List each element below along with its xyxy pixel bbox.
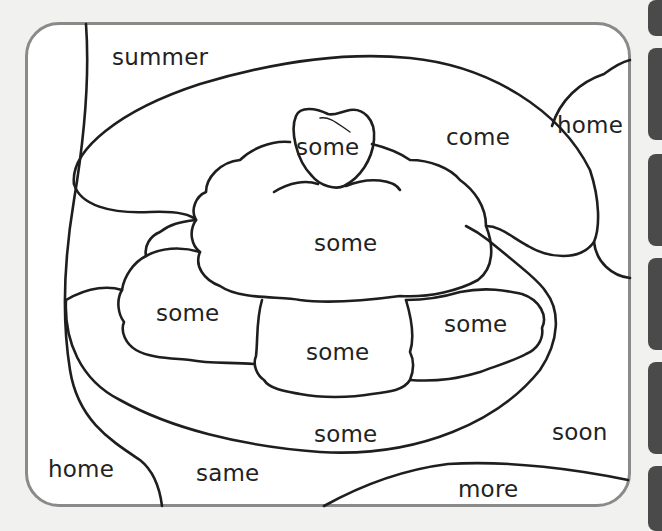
word-scoop-middle[interactable]: some (306, 341, 369, 364)
edge-tab (648, 0, 662, 36)
word-home-left[interactable]: home (48, 458, 114, 481)
edge-tab (648, 258, 662, 350)
word-come[interactable]: come (446, 126, 510, 149)
word-summer[interactable]: summer (112, 46, 208, 69)
word-scoop-right[interactable]: some (444, 313, 507, 336)
edge-tab (648, 154, 662, 246)
word-soon[interactable]: soon (552, 421, 608, 444)
word-same[interactable]: same (196, 462, 259, 485)
word-scoop-left[interactable]: some (156, 302, 219, 325)
edge-tab (648, 466, 662, 531)
edge-tab (648, 48, 662, 140)
edge-tab (648, 362, 662, 454)
word-cherry[interactable]: some (296, 136, 359, 159)
word-home-right[interactable]: home (557, 114, 623, 137)
word-more[interactable]: more (458, 478, 518, 501)
word-bowl[interactable]: some (314, 423, 377, 446)
word-scoop-top[interactable]: some (314, 232, 377, 255)
